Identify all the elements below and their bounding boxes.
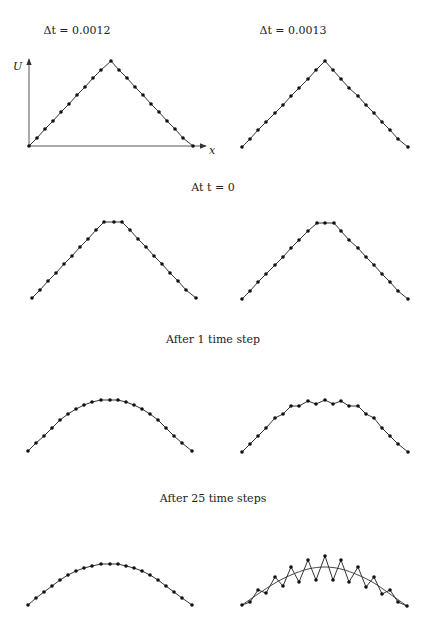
data-point xyxy=(347,238,351,242)
data-point xyxy=(125,76,129,80)
data-point xyxy=(297,238,301,242)
data-point xyxy=(264,120,268,124)
data-point xyxy=(148,573,152,577)
data-point xyxy=(191,144,195,148)
data-point xyxy=(136,237,140,241)
data-point xyxy=(99,398,103,402)
data-point xyxy=(356,565,360,569)
plot-row4-left xyxy=(26,562,194,607)
data-point xyxy=(273,416,277,420)
data-point xyxy=(128,228,132,232)
data-point xyxy=(82,403,86,407)
data-point xyxy=(160,262,164,266)
data-point xyxy=(173,127,177,131)
data-point xyxy=(380,426,384,430)
data-point xyxy=(388,434,392,438)
data-point xyxy=(406,450,410,454)
data-point xyxy=(112,220,116,224)
data-point xyxy=(347,404,351,408)
data-point xyxy=(144,245,148,249)
axes: Ux xyxy=(13,59,216,157)
data-point xyxy=(289,246,293,250)
data-point xyxy=(356,94,360,98)
data-point xyxy=(70,254,74,258)
data-point xyxy=(51,119,55,123)
data-point xyxy=(248,442,252,446)
data-point xyxy=(164,426,168,430)
data-point xyxy=(26,449,30,453)
data-point xyxy=(116,562,120,566)
data-line xyxy=(242,400,408,452)
data-point xyxy=(38,288,42,292)
data-point xyxy=(50,426,54,430)
data-point xyxy=(59,110,63,114)
data-point xyxy=(83,85,87,89)
data-point xyxy=(140,407,144,411)
data-point xyxy=(406,297,410,301)
data-point xyxy=(396,600,400,604)
data-point xyxy=(133,85,137,89)
data-point xyxy=(306,558,310,562)
data-point xyxy=(66,412,70,416)
data-point xyxy=(314,402,318,406)
data-point xyxy=(248,600,252,604)
data-point xyxy=(372,263,376,267)
data-line xyxy=(28,400,192,451)
data-line xyxy=(29,61,193,146)
data-point xyxy=(248,289,252,293)
plot-row2-left xyxy=(30,220,198,300)
data-point xyxy=(149,102,153,106)
data-point xyxy=(74,569,78,573)
data-point xyxy=(46,279,50,283)
data-point xyxy=(156,578,160,582)
data-point xyxy=(34,596,38,600)
data-point xyxy=(323,398,327,402)
data-point xyxy=(306,77,310,81)
data-point xyxy=(314,578,318,582)
data-point xyxy=(331,402,335,406)
data-point xyxy=(180,596,184,600)
data-point xyxy=(132,566,136,570)
data-point xyxy=(347,580,351,584)
x-axis-label: x xyxy=(209,144,216,157)
data-point xyxy=(339,399,343,403)
data-point xyxy=(396,442,400,446)
data-point xyxy=(289,94,293,98)
data-point xyxy=(281,103,285,107)
plots xyxy=(26,59,410,608)
data-point xyxy=(148,412,152,416)
data-point xyxy=(281,584,285,588)
data-point xyxy=(75,93,79,97)
data-point xyxy=(66,573,70,577)
data-point xyxy=(164,584,168,588)
data-point xyxy=(240,450,244,454)
data-point xyxy=(50,584,54,588)
data-point xyxy=(264,426,268,430)
data-point xyxy=(372,111,376,115)
data-point xyxy=(168,271,172,275)
data-point xyxy=(297,86,301,90)
data-point xyxy=(176,279,180,283)
data-point xyxy=(67,102,71,106)
data-point xyxy=(256,128,260,132)
data-point xyxy=(108,398,112,402)
data-point xyxy=(62,262,66,266)
data-point xyxy=(364,103,368,107)
data-point xyxy=(306,399,310,403)
data-point xyxy=(43,127,47,131)
data-point xyxy=(99,68,103,72)
data-point xyxy=(91,76,95,80)
data-point xyxy=(99,562,103,566)
data-point xyxy=(42,434,46,438)
data-point xyxy=(165,119,169,123)
data-point xyxy=(289,565,293,569)
data-point xyxy=(184,288,188,292)
data-point xyxy=(297,404,301,408)
plot-row3-right xyxy=(240,398,410,454)
data-point xyxy=(108,562,112,566)
data-point xyxy=(356,404,360,408)
data-point xyxy=(256,434,260,438)
data-point xyxy=(27,144,31,148)
data-point xyxy=(356,246,360,250)
plot-row1-right xyxy=(240,59,410,149)
